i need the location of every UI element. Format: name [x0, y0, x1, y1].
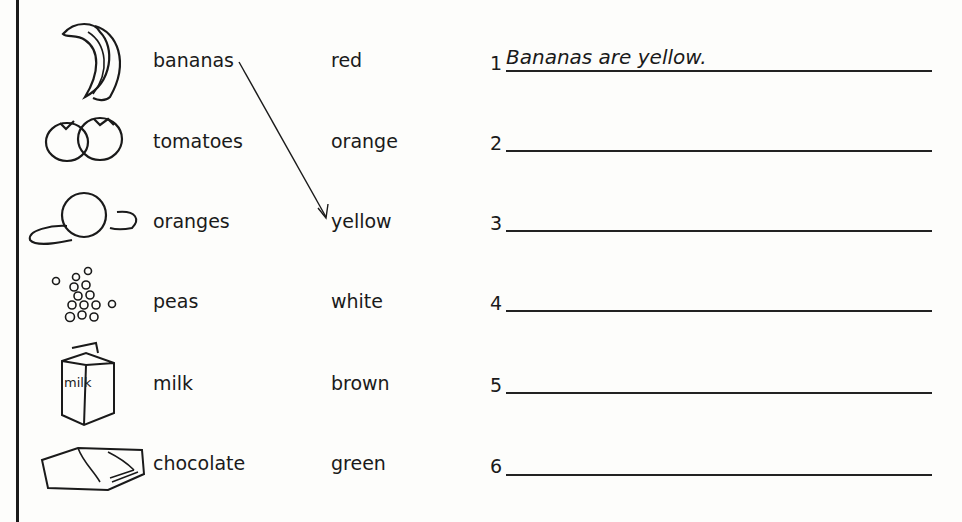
answer-number-1: 1: [490, 52, 502, 74]
answer-number-5: 5: [490, 374, 502, 396]
answer-number-2: 2: [490, 132, 502, 154]
answer-line-5[interactable]: [506, 392, 932, 394]
answer-line-2[interactable]: [506, 150, 932, 152]
answer-number-4: 4: [490, 292, 502, 314]
answer-text-1[interactable]: Bananas are yellow.: [506, 45, 707, 69]
answer-line-3[interactable]: [506, 230, 932, 232]
answer-number-3: 3: [490, 212, 502, 234]
answer-number-6: 6: [490, 455, 502, 477]
answer-line-6[interactable]: [506, 474, 932, 476]
answer-line-1[interactable]: [506, 70, 932, 72]
match-arrow: [0, 0, 962, 522]
answer-line-4[interactable]: [506, 310, 932, 312]
